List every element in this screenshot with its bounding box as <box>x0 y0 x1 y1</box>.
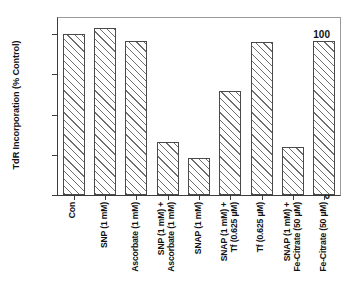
x-axis-tick-label-line: SNAP (1 mM) + <box>283 202 293 272</box>
x-axis-tick-label: Fe-Citrate (50 µM) <box>319 202 329 272</box>
bar[interactable] <box>94 28 116 195</box>
x-axis-tick <box>230 195 231 200</box>
bar[interactable] <box>251 42 273 195</box>
x-axis-tick-label-line: Fe-Citrate (50 µM) <box>292 202 302 272</box>
chart-figure: TdR Incorporation (% Control) 0255075100… <box>0 0 348 300</box>
x-axis-tick-label: Ascorbate (1 mM) <box>131 202 141 272</box>
x-axis-tick-label-line: Fe-Citrate (50 µM) <box>319 202 329 272</box>
x-axis-tick-label-line: SNAP (1 mM) <box>194 202 204 254</box>
bar[interactable] <box>219 91 241 195</box>
bar-slot <box>89 18 120 195</box>
x-axis-tick <box>199 195 200 200</box>
bar[interactable] <box>282 147 304 195</box>
x-axis-tick-label-line: SNAP (1 mM) + <box>220 202 230 261</box>
bar-slot <box>121 18 152 195</box>
x-axis-tick-label: SNAP (1 mM) +Tf (0.625 µM) <box>220 202 239 261</box>
plot-area: 0255075100 <box>57 17 341 196</box>
x-axis-tick-label-line: SNP (1 mM) <box>100 202 110 248</box>
x-axis-tick <box>105 195 106 200</box>
x-axis-tick-label: Tf (0.625 µM) <box>256 202 266 252</box>
x-axis-tick-label-line: Tf (0.625 µM) <box>256 202 266 252</box>
x-axis-tick-label: SNP (1 mM) <box>100 202 110 248</box>
x-axis-tick-label: SNP (1 mM) +Ascorbate (1 mM) <box>157 202 176 272</box>
bar[interactable] <box>125 41 147 195</box>
bar-slot <box>183 18 214 195</box>
x-axis-tick <box>136 195 137 200</box>
x-axis-tick-label-line: Ascorbate (1 mM) <box>167 202 177 272</box>
bar-slot <box>215 18 246 195</box>
x-axis-tick-label: SNAP (1 mM) +Fe-Citrate (50 µM) <box>283 202 302 272</box>
bar-slot <box>246 18 277 195</box>
y-axis-tick <box>52 195 58 196</box>
x-axis-tick-label-line: Tf (0.625 µM) <box>229 202 239 261</box>
x-axis-tick-label: Con <box>68 202 78 218</box>
bar-slot <box>309 18 340 195</box>
x-axis-tick <box>324 195 325 200</box>
x-axis-tick <box>168 195 169 200</box>
x-axis-tick-label-line: Con <box>68 202 78 218</box>
x-axis-tick <box>262 195 263 200</box>
x-axis-tick-label: SNAP (1 mM) <box>194 202 204 254</box>
bar[interactable] <box>188 158 210 195</box>
x-axis-tick <box>74 195 75 200</box>
x-axis-tick-label-line: Ascorbate (1 mM) <box>131 202 141 272</box>
bar-series <box>58 18 340 195</box>
bar-slot <box>152 18 183 195</box>
bar[interactable] <box>63 34 85 195</box>
y-axis-title: TdR Incorporation (% Control) <box>8 5 24 205</box>
x-axis-tick <box>293 195 294 200</box>
bar[interactable] <box>313 41 335 195</box>
bar-slot <box>58 18 89 195</box>
bar[interactable] <box>157 142 179 195</box>
bar-slot <box>277 18 308 195</box>
